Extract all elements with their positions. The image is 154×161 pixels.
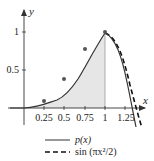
- legend: p(x) sin (πx²/2): [45, 134, 117, 158]
- x-tick-label: 0.25: [35, 112, 53, 123]
- chart: 0.25 0.5 0.75 1 1.25 0.5 1 x y p(x) sin …: [0, 0, 154, 161]
- y-tick-label: 0.5: [7, 64, 20, 75]
- x-tick-label: 0.75: [76, 112, 94, 123]
- y-axis-arrow-icon: [21, 9, 27, 16]
- x-axis-label: x: [142, 94, 148, 106]
- legend-label-sin: sin (πx²/2): [75, 146, 117, 158]
- shaded-area: [24, 33, 105, 108]
- x-tick-label: 1.25: [117, 112, 135, 123]
- y-axis-label: y: [28, 5, 34, 17]
- x-tick-label: 1: [103, 112, 108, 123]
- legend-label-p: p(x): [74, 134, 92, 146]
- y-tick-label: 1: [14, 26, 19, 37]
- x-tick-label: 0.5: [58, 112, 71, 123]
